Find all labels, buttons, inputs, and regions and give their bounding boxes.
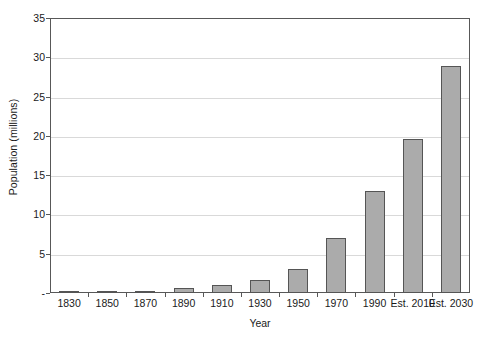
bar [174, 288, 194, 293]
bar [288, 269, 308, 293]
y-axis-tick-label: 20 [9, 129, 50, 143]
y-axis-tick-mark [46, 293, 50, 294]
x-axis-tick-labels: 183018501870189019101930195019701990Est.… [50, 296, 470, 312]
bar [135, 291, 155, 293]
bar [326, 238, 346, 293]
bar [97, 291, 117, 293]
y-axis-tick-label: 35 [9, 11, 50, 25]
y-axis-tick-label: 25 [9, 90, 50, 104]
bar [365, 191, 385, 293]
x-axis-title: Year [50, 317, 470, 329]
bar-series [50, 18, 470, 293]
bar [59, 291, 79, 293]
bar-chart: Population (millions) -5101520253035 183… [0, 0, 501, 340]
bar [250, 280, 270, 293]
bar [212, 285, 232, 293]
y-axis-tick-label: 5 [9, 247, 50, 261]
bar [441, 66, 461, 293]
y-axis-tick-label: 30 [9, 50, 50, 64]
y-axis-ticks: -5101520253035 [0, 0, 50, 311]
y-axis-tick-label: 10 [9, 207, 50, 221]
bar [403, 139, 423, 293]
y-axis-tick-label: 15 [9, 168, 50, 182]
x-axis-tick-label: Est. 2030 [426, 296, 476, 310]
